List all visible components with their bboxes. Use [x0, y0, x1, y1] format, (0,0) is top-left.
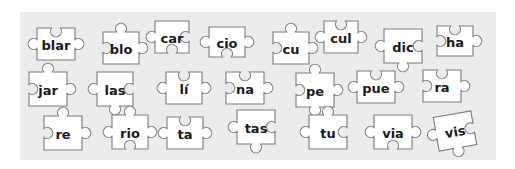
syllable-label: blar: [42, 38, 72, 53]
puzzle-piece-ha[interactable]: ha: [437, 26, 482, 56]
puzzle-piece-dic[interactable]: dic: [375, 29, 422, 72]
puzzle-piece-na[interactable]: na: [226, 72, 273, 104]
syllable-pieces-layer: blar blo car cio cu cul dic ha jar las l…: [0, 0, 515, 169]
puzzle-piece-tas[interactable]: tas: [228, 110, 275, 153]
syllable-label: car: [161, 31, 184, 46]
syllable-label: cio: [216, 36, 237, 51]
puzzle-piece-li[interactable]: lí: [157, 72, 211, 104]
syllable-label: lí: [180, 82, 190, 97]
syllable-label: pue: [362, 81, 390, 96]
puzzle-piece-via[interactable]: via: [365, 115, 421, 149]
syllable-label: ra: [434, 80, 449, 95]
syllable-label: via: [382, 126, 404, 141]
puzzle-piece-tu[interactable]: tu: [300, 106, 347, 149]
puzzle-piece-blar[interactable]: blar: [28, 28, 84, 60]
puzzle-piece-jar[interactable]: jar: [29, 63, 76, 106]
puzzle-piece-pe[interactable]: pe: [296, 64, 343, 116]
puzzle-piece-ra[interactable]: ra: [423, 70, 470, 102]
puzzle-piece-cul[interactable]: cul: [315, 21, 367, 53]
puzzle-piece-blo[interactable]: blo: [103, 23, 148, 64]
puzzle-piece-vis[interactable]: vis: [425, 111, 479, 161]
puzzle-piece-car[interactable]: car: [146, 21, 189, 53]
syllable-label: rio: [120, 126, 140, 141]
syllable-label: jar: [37, 83, 58, 98]
syllable-label: tu: [320, 126, 335, 141]
syllable-label: re: [55, 127, 70, 142]
syllable-label: ta: [178, 127, 193, 142]
syllable-label: tas: [245, 121, 268, 136]
puzzle-piece-ta[interactable]: ta: [158, 117, 212, 149]
syllable-label: blo: [110, 42, 133, 57]
syllable-label: cu: [283, 42, 300, 57]
syllable-label: pe: [306, 84, 324, 99]
puzzle-piece-cu[interactable]: cu: [273, 23, 318, 64]
syllable-label: ha: [446, 35, 464, 50]
syllable-label: na: [236, 82, 254, 97]
puzzle-piece-re[interactable]: re: [44, 107, 91, 150]
syllable-label: dic: [392, 40, 413, 55]
syllable-label: las: [105, 83, 126, 98]
puzzle-piece-cio[interactable]: cio: [200, 27, 254, 57]
puzzle-piece-pue[interactable]: pue: [348, 71, 404, 103]
syllable-label: cul: [330, 31, 351, 46]
